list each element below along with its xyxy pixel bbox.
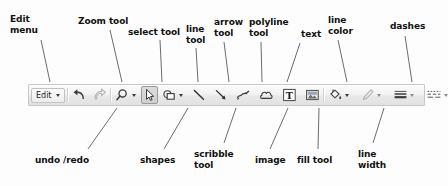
scribble-tool-button[interactable] (235, 86, 252, 104)
cloud-icon (259, 88, 274, 102)
callout-zoom-tool: Zoom tool (78, 16, 128, 27)
callout-scribble-tool: scribble tool (194, 149, 234, 170)
leader-line-line-color (338, 40, 347, 82)
diagram-canvas: Edit menu Zoom tool select tool line too… (0, 0, 448, 186)
chevron-down-icon[interactable] (179, 94, 183, 97)
callout-line-color: line color (328, 15, 353, 36)
callout-polyline-tool: polyline tool (249, 17, 288, 38)
zoom-tool-button[interactable] (114, 86, 138, 104)
chevron-down-icon[interactable] (377, 94, 381, 97)
shapes-icon (162, 88, 177, 102)
line-color-button[interactable] (360, 86, 383, 104)
leader-line-line-width (373, 108, 384, 143)
callout-line-width: line width (358, 149, 386, 170)
chevron-down-icon[interactable] (410, 94, 414, 97)
text-tool-button[interactable]: T (281, 86, 298, 104)
callout-line-tool: line tool (186, 24, 205, 45)
line-width-icon (393, 88, 408, 102)
chevron-down-icon[interactable] (444, 94, 448, 97)
fill-tool-button[interactable] (327, 86, 351, 104)
undo-button[interactable] (71, 86, 88, 104)
leader-line-scribble-tool (224, 108, 236, 143)
polyline-tool-button[interactable] (258, 86, 275, 104)
line-width-button[interactable] (392, 86, 416, 104)
image-icon (305, 88, 320, 102)
svg-text:T: T (285, 90, 293, 101)
redo-icon (92, 88, 107, 102)
callout-select-tool: select tool (128, 27, 180, 38)
image-tool-button[interactable] (304, 86, 321, 104)
leader-line-undo-redo (88, 108, 117, 149)
callout-text-tool: text (301, 29, 321, 40)
chevron-down-icon[interactable] (345, 94, 349, 97)
redo-button[interactable] (91, 86, 108, 104)
text-t-icon: T (282, 88, 297, 102)
chevron-down-icon (56, 94, 60, 97)
callout-arrow-tool: arrow tool (214, 17, 243, 38)
pencil-icon (361, 88, 375, 102)
select-tool-button[interactable] (141, 86, 158, 104)
line-icon (192, 88, 206, 102)
leader-line-dashes (405, 36, 412, 82)
leader-line-text-tool (287, 43, 300, 82)
leader-line-shapes (164, 108, 188, 149)
edit-menu-label: Edit (36, 91, 52, 100)
leader-line-edit-menu (41, 40, 50, 82)
callout-fill-tool: fill tool (297, 155, 332, 166)
toolbar-separator (110, 88, 112, 102)
edit-menu-button[interactable]: Edit (31, 86, 65, 104)
callout-image: image (255, 155, 286, 166)
scribble-icon (236, 88, 251, 102)
undo-icon (72, 88, 87, 102)
toolbar-separator (323, 88, 325, 102)
cursor-icon (143, 88, 156, 102)
leader-line-fill-tool (318, 108, 319, 149)
leader-line-polyline-tool (261, 42, 262, 82)
leader-line-select-tool (160, 40, 162, 82)
toolbar-separator (67, 88, 69, 102)
leader-line-line-tool (196, 48, 198, 82)
arrow-icon (214, 88, 228, 102)
leader-line-arrow-tool (224, 42, 229, 82)
callout-dashes: dashes (390, 21, 425, 32)
drawing-toolbar: Edit (28, 84, 425, 106)
leader-line-zoom-tool (110, 30, 122, 82)
callout-shapes: shapes (140, 155, 175, 166)
callout-undo-redo: undo /redo (35, 155, 89, 166)
magnifier-icon (115, 88, 130, 102)
shapes-tool-button[interactable] (161, 86, 185, 104)
dashes-button[interactable] (425, 86, 448, 104)
leader-line-image (270, 108, 288, 149)
paint-bucket-icon (328, 88, 343, 102)
arrow-tool-button[interactable] (213, 86, 229, 104)
callout-edit-menu: Edit menu (10, 14, 38, 35)
dashes-icon (426, 88, 442, 102)
line-tool-button[interactable] (191, 86, 207, 104)
chevron-down-icon[interactable] (132, 94, 136, 97)
